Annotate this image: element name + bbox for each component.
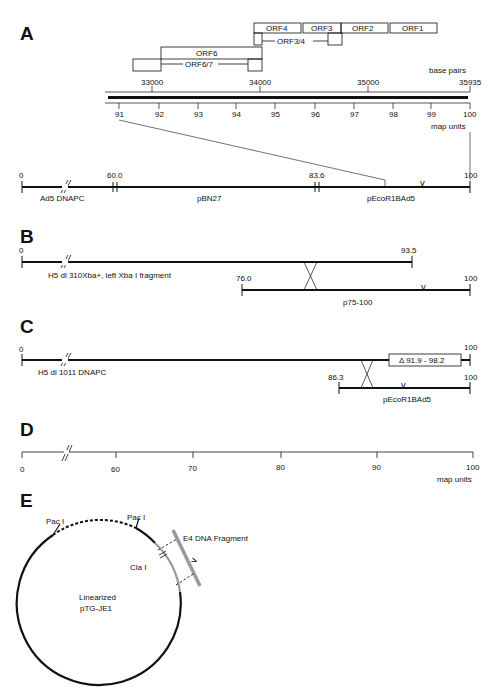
bp-tick-33000: 33000 bbox=[141, 78, 164, 87]
orf2-label: ORF2 bbox=[352, 24, 374, 33]
bp-tick-35000: 35000 bbox=[357, 78, 380, 87]
panel-a-letter: A bbox=[20, 23, 34, 44]
mu-tick-98: 98 bbox=[389, 110, 398, 119]
panel-c: C Δ 91.9 - 98.2 0 100 H5 dl 1011 DNAPC 8… bbox=[19, 316, 478, 404]
mu-tick-94: 94 bbox=[232, 110, 241, 119]
orf6-7-left-box bbox=[133, 59, 161, 71]
c-bottom-label: pEcoR1BAd5 bbox=[383, 395, 432, 404]
orf3-label: ORF3 bbox=[311, 24, 333, 33]
orf6-7-right-box bbox=[248, 59, 262, 71]
d-tick-60: 60 bbox=[111, 465, 120, 474]
orf3-4-left-box bbox=[254, 33, 262, 45]
d-tick-100: 100 bbox=[466, 463, 480, 472]
panel-a: A ORF4 ORF3 ORF2 ORF1 ORF3/4 ORF6 ORF6/7… bbox=[19, 23, 482, 203]
orf6-7-label: ORF6/7 bbox=[185, 60, 214, 69]
b-tick-0: 0 bbox=[19, 246, 24, 255]
b-tick-93-5: 93.5 bbox=[401, 246, 417, 255]
orf1-label: ORF1 bbox=[402, 24, 424, 33]
segment-ad5-dnapc: Ad5 DNAPC bbox=[40, 194, 85, 203]
b-bottom-label: p75-100 bbox=[343, 298, 373, 307]
e4-fragment-label: E4 DNA Fragment bbox=[183, 534, 249, 543]
orf3-4-label: ORF3/4 bbox=[277, 37, 306, 46]
orf3-4-right-box bbox=[328, 33, 342, 45]
plasmid-label-line1: Linearized bbox=[79, 593, 116, 602]
plasmid-circle bbox=[17, 520, 181, 685]
mu-tick-91: 91 bbox=[115, 110, 124, 119]
d-tick-0: 0 bbox=[20, 465, 25, 474]
d-tick-80: 80 bbox=[276, 463, 285, 472]
d-tick-90: 90 bbox=[372, 463, 381, 472]
mu-tick-95: 95 bbox=[271, 110, 280, 119]
panel-d: D 0 60 70 80 90 100 map units bbox=[20, 419, 480, 484]
c-marker-v: v bbox=[401, 379, 406, 390]
c-tick-100-top: 100 bbox=[464, 343, 478, 352]
map-tick-0: 0 bbox=[19, 171, 24, 180]
mu-tick-92: 92 bbox=[155, 110, 164, 119]
b-marker-v: v bbox=[421, 281, 426, 292]
mu-tick-97: 97 bbox=[350, 110, 359, 119]
orf6-label: ORF6 bbox=[196, 49, 218, 58]
figure-canvas: A ORF4 ORF3 ORF2 ORF1 ORF3/4 ORF6 ORF6/7… bbox=[0, 0, 498, 691]
segment-pecor1bad5: pEcoR1BAd5 bbox=[367, 194, 416, 203]
orf4-label: ORF4 bbox=[266, 24, 288, 33]
c-tick-0: 0 bbox=[19, 345, 24, 354]
genome-bar bbox=[108, 96, 468, 99]
map-tick-83-6: 83.6 bbox=[309, 171, 325, 180]
bp-tick-34000: 34000 bbox=[249, 78, 272, 87]
panel-c-letter: C bbox=[20, 316, 34, 337]
map-units-label: map units bbox=[431, 122, 466, 131]
c-tick-100-bottom: 100 bbox=[464, 373, 478, 382]
deletion-label: Δ 91.9 - 98.2 bbox=[399, 356, 445, 365]
d-axis-label: map units bbox=[437, 475, 472, 484]
cla-i-label: Cla I bbox=[130, 563, 146, 572]
pac-i-left-label: Pac I bbox=[46, 517, 64, 526]
b-top-label: H5 dl 310Xba+, left Xba I fragment bbox=[48, 271, 172, 280]
map-tick-100: 100 bbox=[464, 171, 478, 180]
panel-e-letter: E bbox=[20, 490, 33, 511]
pac-i-right-label: Pac I bbox=[127, 513, 145, 522]
marker-v: v bbox=[420, 177, 425, 188]
mu-tick-93: 93 bbox=[194, 110, 203, 119]
mu-tick-96: 96 bbox=[311, 110, 320, 119]
segment-pbn27: pBN27 bbox=[197, 194, 222, 203]
plasmid-label-line2: pTG-JE1 bbox=[80, 604, 113, 613]
mu-tick-100: 100 bbox=[463, 110, 477, 119]
genome-map-a bbox=[22, 180, 470, 193]
b-tick-76: 76.0 bbox=[236, 274, 252, 283]
panel-b: B 0 93.5 H5 dl 310Xba+, left Xba I fragm… bbox=[19, 226, 478, 307]
map-tick-60: 60.0 bbox=[107, 171, 123, 180]
c-tick-86-3: 86.3 bbox=[328, 373, 344, 382]
base-pairs-label: base pairs bbox=[429, 66, 466, 75]
panel-b-letter: B bbox=[20, 226, 34, 247]
mu-tick-99: 99 bbox=[427, 110, 436, 119]
panel-e: E Pac I Pac I Cla I v E4 DNA Fragment Li… bbox=[17, 490, 249, 685]
d-tick-70: 70 bbox=[188, 464, 197, 473]
b-tick-100: 100 bbox=[464, 274, 478, 283]
c-top-label: H5 dl 1011 DNAPC bbox=[38, 368, 107, 377]
bp-tick-35935: 35935 bbox=[459, 78, 482, 87]
panel-d-letter: D bbox=[20, 419, 34, 440]
